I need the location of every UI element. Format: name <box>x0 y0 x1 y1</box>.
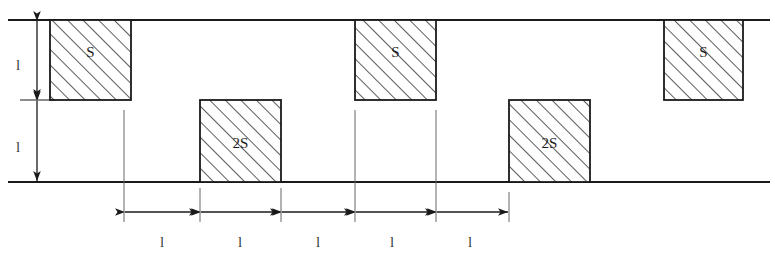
horizontal-dimension-5: l <box>437 212 508 250</box>
upper-blocks-group: S S S <box>50 20 743 100</box>
block-label: S <box>699 44 707 60</box>
dimension-label: l <box>16 139 20 155</box>
dimension-label: l <box>468 234 472 250</box>
horizontal-dimension-3: l <box>282 212 354 250</box>
dimension-label: l <box>238 234 242 250</box>
block-label: 2S <box>233 135 249 151</box>
vertical-dimension-2: l <box>16 101 37 181</box>
block-rect <box>355 20 436 100</box>
horizontal-dimensions-group: l l l l l <box>125 212 508 250</box>
horizontal-dimension-2: l <box>201 212 280 250</box>
dimension-label: l <box>316 234 320 250</box>
block-diagram: S S S 2S 2S <box>0 0 775 258</box>
block-rect <box>664 20 743 100</box>
upper-block-1: S <box>50 20 131 100</box>
lower-block-1: 2S <box>200 100 281 182</box>
extension-lines <box>124 110 509 222</box>
block-label: S <box>86 44 94 60</box>
horizontal-dimension-1: l <box>125 212 199 250</box>
vertical-dimension-1: l <box>16 21 37 99</box>
lower-block-2: 2S <box>509 100 590 182</box>
lower-blocks-group: 2S 2S <box>200 100 590 182</box>
upper-block-3: S <box>664 20 743 100</box>
horizontal-dimension-4: l <box>356 212 435 250</box>
block-label: S <box>391 44 399 60</box>
block-rect <box>50 20 131 100</box>
diagram-canvas: S S S 2S 2S <box>0 0 775 258</box>
dimension-label: l <box>16 57 20 73</box>
block-label: 2S <box>542 135 558 151</box>
upper-block-2: S <box>355 20 436 100</box>
dimension-label: l <box>390 234 394 250</box>
dimension-label: l <box>160 234 164 250</box>
